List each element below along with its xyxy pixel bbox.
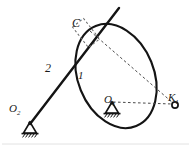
ground-hatch-o2 [23,134,37,137]
label-point-o2: O2 [9,103,20,117]
label-link-1: 1 [78,70,84,81]
dashed-line-c-to-k1 [90,31,173,103]
ground-support-o2 [22,121,39,137]
label-link-2: 2 [45,62,51,74]
label-point-c: C [72,17,80,29]
label-point-k1: K1 [168,92,179,106]
label-point-o1: O1 [104,94,115,108]
ground-hatch-o1 [105,114,119,117]
mechanism-diagram: C O1 O2 K1 1 2 [0,0,191,146]
diagram-canvas [0,0,191,146]
dashed-line-o1-to-k1 [113,102,172,104]
